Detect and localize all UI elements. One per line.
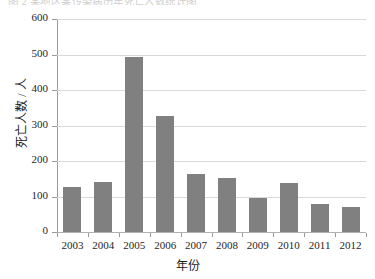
x-axis-tick xyxy=(119,233,120,237)
y-axis-label: 0 xyxy=(0,224,48,236)
y-axis-tick xyxy=(52,126,57,127)
x-axis-tick xyxy=(88,233,89,237)
x-axis-tick xyxy=(242,233,243,237)
gridline xyxy=(57,126,366,127)
x-axis-tick xyxy=(181,233,182,237)
x-axis-title: 年份 xyxy=(0,256,375,274)
y-axis-tick xyxy=(52,161,57,162)
bar[interactable] xyxy=(218,178,236,232)
y-axis-tick xyxy=(52,55,57,56)
y-axis-label: 400 xyxy=(0,82,48,94)
bar[interactable] xyxy=(63,187,81,232)
y-axis-label: 500 xyxy=(0,47,48,59)
x-axis-tick xyxy=(366,233,367,237)
gridline xyxy=(57,90,366,91)
x-axis-tick xyxy=(57,233,58,237)
x-axis-tick xyxy=(273,233,274,237)
bar[interactable] xyxy=(311,204,329,232)
gridline xyxy=(57,19,366,20)
bar[interactable] xyxy=(249,198,267,232)
bar[interactable] xyxy=(187,174,205,232)
y-axis-tick xyxy=(52,19,57,20)
gridline xyxy=(57,55,366,56)
y-axis-label: 300 xyxy=(0,118,48,130)
y-axis-tick xyxy=(52,197,57,198)
y-axis-tick xyxy=(52,90,57,91)
y-axis-label: 100 xyxy=(0,189,48,201)
bar[interactable] xyxy=(156,116,174,232)
bar[interactable] xyxy=(94,182,112,232)
y-axis-label: 200 xyxy=(0,153,48,165)
bar[interactable] xyxy=(280,183,298,232)
y-axis-title: 死亡人数 / 人 xyxy=(12,58,30,168)
x-axis-tick xyxy=(212,233,213,237)
plot-area xyxy=(57,19,366,232)
bar[interactable] xyxy=(125,57,143,232)
x-axis-tick xyxy=(150,233,151,237)
x-axis-tick xyxy=(335,233,336,237)
y-axis-label: 600 xyxy=(0,11,48,23)
bar[interactable] xyxy=(342,207,360,232)
x-axis-label: 2012 xyxy=(331,239,371,251)
x-axis-tick xyxy=(304,233,305,237)
bar-chart: 死亡人数 / 人 年份 0100200300400500600200320042… xyxy=(0,0,375,279)
gridline xyxy=(57,161,366,162)
